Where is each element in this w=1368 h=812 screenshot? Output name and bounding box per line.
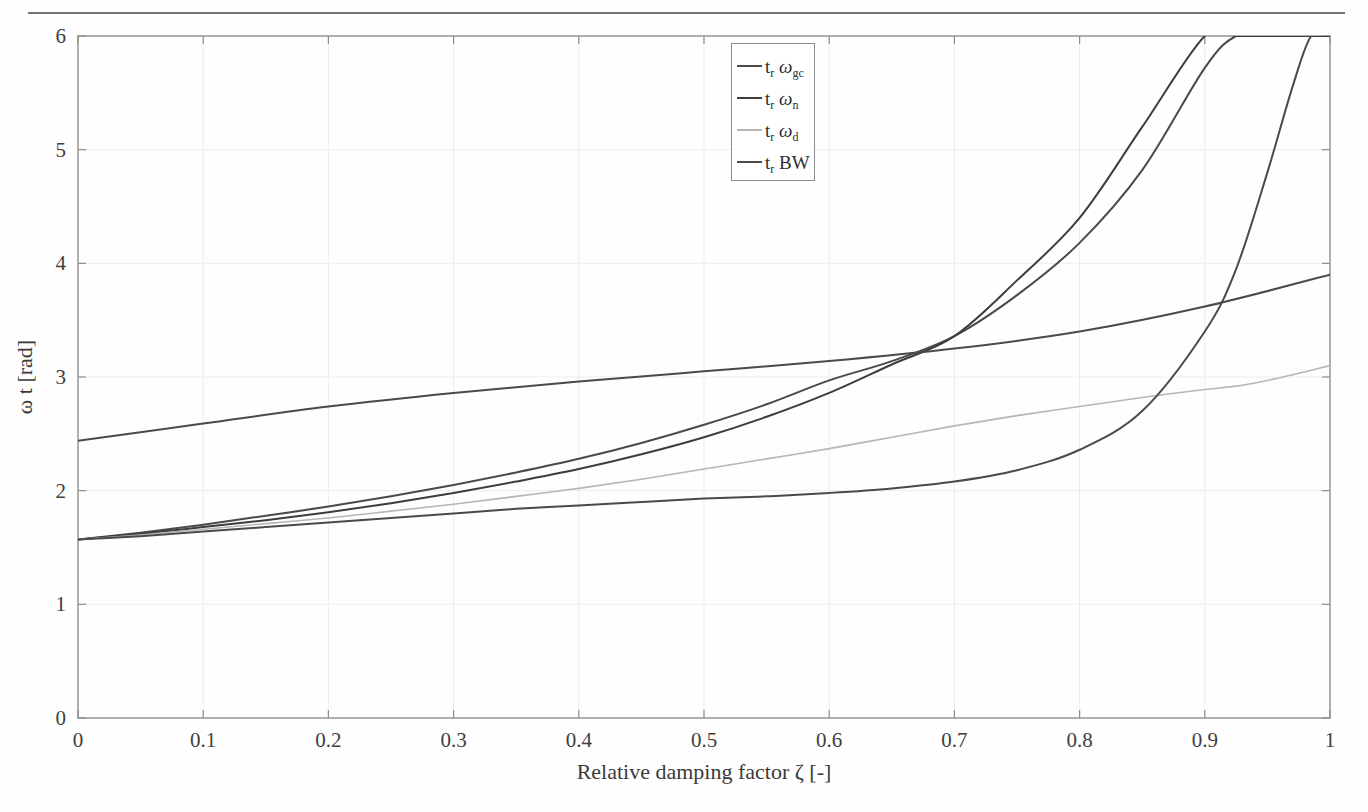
legend-box: tr ωgctr ωntr ωdtr BW: [731, 43, 815, 181]
x-axis-tick-labels: 00.10.20.30.40.50.60.70.80.91: [73, 728, 1336, 752]
legend-entry-label: tr ωn: [765, 89, 798, 108]
grid-lines: [78, 36, 1330, 718]
legend-color-swatch: [737, 97, 762, 99]
y-tick-label: 2: [56, 479, 67, 503]
y-tick-label: 5: [56, 138, 67, 162]
x-tick-label: 0.2: [315, 728, 341, 752]
scanned-page: 00.10.20.30.40.50.60.70.80.91 0123456 Re…: [0, 0, 1368, 812]
x-tick-label: 0.7: [941, 728, 967, 752]
x-tick-label: 0.8: [1066, 728, 1092, 752]
x-tick-label: 1: [1325, 728, 1336, 752]
legend-color-swatch: [737, 161, 762, 163]
y-axis-title: ω t [rad]: [12, 340, 37, 414]
figure-container: 00.10.20.30.40.50.60.70.80.91 0123456 Re…: [0, 0, 1368, 812]
x-tick-label: 0.3: [440, 728, 466, 752]
x-tick-label: 0.4: [566, 728, 593, 752]
legend-entry-label: tr BW: [765, 153, 810, 172]
legend-entry-label: tr ωgc: [765, 57, 804, 76]
x-tick-label: 0.5: [691, 728, 717, 752]
legend-entry[interactable]: tr BW: [737, 146, 809, 178]
x-axis-title: Relative damping factor ζ [-]: [577, 759, 832, 784]
x-tick-label: 0.1: [190, 728, 216, 752]
x-tick-label: 0: [73, 728, 84, 752]
y-tick-label: 6: [56, 24, 67, 48]
plot-canvas: 00.10.20.30.40.50.60.70.80.91 0123456 Re…: [0, 0, 1368, 812]
legend-entry-label: tr ωd: [765, 121, 798, 140]
legend-entry[interactable]: tr ωd: [737, 114, 809, 146]
x-tick-label: 0.9: [1192, 728, 1218, 752]
legend-color-swatch: [737, 65, 762, 67]
y-tick-label: 4: [56, 251, 67, 275]
y-tick-label: 1: [56, 592, 67, 616]
y-axis-tick-labels: 0123456: [56, 24, 67, 730]
y-tick-label: 0: [56, 706, 67, 730]
x-tick-label: 0.6: [816, 728, 842, 752]
y-tick-label: 3: [56, 365, 67, 389]
legend-entry[interactable]: tr ωgc: [737, 50, 809, 82]
legend-color-swatch: [737, 129, 762, 131]
legend-entry[interactable]: tr ωn: [737, 82, 809, 114]
